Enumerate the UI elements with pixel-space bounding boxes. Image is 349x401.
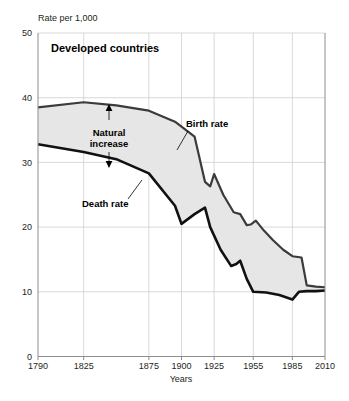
x-axis-tick-labels: 17901825187519001925195519852010 (28, 361, 335, 371)
x-tick-label: 1875 (139, 361, 159, 371)
y-tick-label: 50 (22, 28, 32, 38)
y-tick-label: 20 (22, 222, 32, 232)
x-tick-label: 1825 (74, 361, 94, 371)
x-tick-label: 1985 (282, 361, 302, 371)
y-tick-label: 30 (22, 158, 32, 168)
x-tick-label: 2010 (315, 361, 335, 371)
death-rate-label: Death rate (82, 198, 128, 209)
chart-figure: Rate per 1,000 01020304050 1790182518751… (0, 0, 349, 401)
x-tick-label: 1900 (171, 361, 191, 371)
natural-increase-label-line2: increase (90, 138, 129, 149)
y-tick-label: 40 (22, 93, 32, 103)
natural-increase-label-line1: Natural (93, 127, 126, 138)
x-axis-title: Years (170, 374, 193, 384)
y-tick-label: 10 (22, 287, 32, 297)
x-tick-label: 1790 (28, 361, 48, 371)
plot-title: Developed countries (51, 42, 159, 54)
x-tick-label: 1955 (243, 361, 263, 371)
birth-rate-label: Birth rate (186, 118, 228, 129)
y-axis-title: Rate per 1,000 (38, 13, 98, 23)
x-tick-label: 1925 (204, 361, 224, 371)
